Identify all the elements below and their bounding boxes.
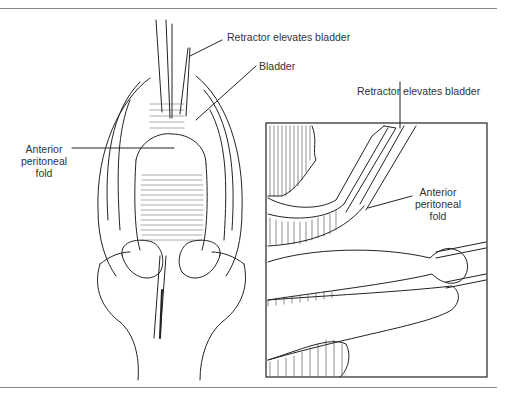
inset-view — [266, 123, 487, 377]
main-surgical-view — [97, 20, 245, 380]
label-fold-inset: Anterior peritoneal fold — [408, 186, 468, 222]
label-bladder-main: Bladder — [259, 60, 295, 72]
leader-retractor-main — [190, 40, 222, 56]
label-fold-inset-line3: fold — [408, 210, 468, 222]
label-fold-main-line1: Anterior — [14, 143, 74, 155]
label-fold-main-line3: fold — [14, 167, 74, 179]
leader-bladder-main — [196, 66, 256, 120]
label-fold-inset-line1: Anterior — [408, 186, 468, 198]
label-fold-inset-line2: peritoneal — [408, 198, 468, 210]
label-fold-main: Anterior peritoneal fold — [14, 143, 74, 179]
label-fold-main-line2: peritoneal — [14, 155, 74, 167]
label-retractor-inset: Retractor elevates bladder — [357, 85, 480, 97]
label-retractor-main: Retractor elevates bladder — [227, 31, 350, 43]
